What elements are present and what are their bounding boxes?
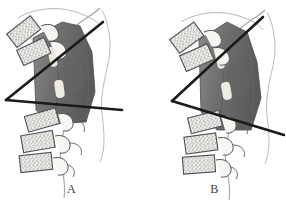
panel-b: B: [143, 0, 286, 204]
panel-b-illustration: [143, 0, 286, 204]
panel-a: A: [0, 0, 143, 204]
panel-b-label: B: [143, 182, 286, 197]
spine-angle-figure: A: [0, 0, 286, 204]
panel-a-label: A: [0, 182, 143, 197]
panel-a-illustration: [0, 0, 143, 204]
